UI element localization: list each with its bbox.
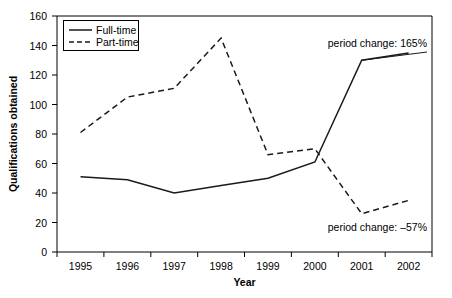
legend-label-part-time: Part-time xyxy=(96,36,139,48)
y-axis-title: Qualifications obtained xyxy=(7,76,19,192)
x-axis-tick-labels: 1995 1996 1997 1998 1999 2000 2001 2002 xyxy=(69,260,421,272)
annotation-label-minus57: period change: –57% xyxy=(328,221,427,233)
line-chart-figure: 0 20 40 60 80 100 120 140 160 Qualificat… xyxy=(0,0,452,298)
chart-canvas: 0 20 40 60 80 100 120 140 160 Qualificat… xyxy=(0,0,452,298)
x-tick-label-1997: 1997 xyxy=(163,260,187,272)
y-tick-label-40: 40 xyxy=(35,187,47,199)
plot-frame xyxy=(57,16,432,252)
x-tick-label-2000: 2000 xyxy=(303,260,327,272)
annotation-part-time-change: period change: –57% xyxy=(328,221,427,233)
y-tick-label-60: 60 xyxy=(35,158,47,170)
y-tick-label-20: 20 xyxy=(35,217,47,229)
y-tick-label-0: 0 xyxy=(41,246,47,258)
y-axis-ticks xyxy=(52,16,57,252)
x-tick-label-1999: 1999 xyxy=(256,260,280,272)
y-tick-label-100: 100 xyxy=(29,99,47,111)
x-tick-label-2001: 2001 xyxy=(350,260,374,272)
annotation-label-165: period change: 165% xyxy=(328,37,427,49)
series-line-full-time xyxy=(81,53,409,193)
chart-legend: Full-time Part-time xyxy=(64,21,139,51)
y-tick-label-140: 140 xyxy=(29,40,47,52)
annotation-full-time-change: period change: 165% xyxy=(328,37,427,60)
y-axis-tick-labels: 0 20 40 60 80 100 120 140 160 xyxy=(29,10,47,258)
annotation-leader-165 xyxy=(362,52,427,60)
x-tick-label-2002: 2002 xyxy=(397,260,421,272)
x-axis-ticks xyxy=(57,252,432,257)
y-tick-label-80: 80 xyxy=(35,128,47,140)
x-axis-title: Year xyxy=(233,276,255,288)
legend-label-full-time: Full-time xyxy=(96,24,136,36)
y-tick-label-160: 160 xyxy=(29,10,47,22)
x-tick-label-1998: 1998 xyxy=(209,260,233,272)
x-tick-label-1995: 1995 xyxy=(69,260,93,272)
x-tick-label-1996: 1996 xyxy=(116,260,140,272)
y-tick-label-120: 120 xyxy=(29,69,47,81)
